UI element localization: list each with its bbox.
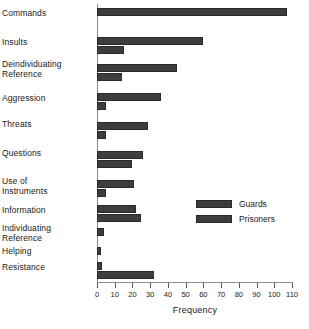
x-axis-title: Frequency xyxy=(97,305,293,315)
bar-chart-figure: CommandsInsultsDeindividuatingReferenceA… xyxy=(0,0,309,329)
chart-legend: Guards Prisoners xyxy=(196,196,275,226)
x-tick-mark-30 xyxy=(150,283,151,288)
bar-guards-commands xyxy=(97,8,287,16)
y-label-resistance: Resistance xyxy=(2,262,83,272)
bar-prisoners-information xyxy=(97,214,141,222)
legend-item-prisoners: Prisoners xyxy=(196,211,275,226)
x-tick-mark-50 xyxy=(186,283,187,288)
bar-prisoners-threats xyxy=(97,131,106,139)
x-tick-mark-80 xyxy=(239,283,240,288)
x-tick-label-40: 40 xyxy=(164,290,172,299)
bar-prisoners-resistance xyxy=(97,271,154,279)
bar-guards-individuating-reference xyxy=(97,228,104,236)
x-tick-mark-100 xyxy=(274,283,275,288)
legend-label-guards: Guards xyxy=(239,199,267,209)
x-tick-mark-60 xyxy=(203,283,204,288)
legend-label-prisoners: Prisoners xyxy=(239,214,275,224)
y-label-use-of-instruments: Use ofInstruments xyxy=(2,176,83,196)
x-tick-mark-40 xyxy=(168,283,169,288)
y-label-insults: Insults xyxy=(2,37,83,47)
x-tick-mark-0 xyxy=(97,283,98,288)
y-label-commands: Commands xyxy=(2,8,83,18)
x-tick-label-110: 110 xyxy=(286,290,298,299)
bar-guards-information xyxy=(97,205,136,213)
y-label-deindividuating-reference: DeindividuatingReference xyxy=(2,59,83,79)
bar-guards-deindividuating-reference xyxy=(97,64,177,72)
y-axis-category-labels: CommandsInsultsDeindividuatingReferenceA… xyxy=(0,0,92,282)
x-tick-label-30: 30 xyxy=(146,290,154,299)
legend-swatch-prisoners xyxy=(196,215,232,223)
bar-guards-aggression xyxy=(97,93,161,101)
x-tick-mark-110 xyxy=(292,283,293,288)
bar-guards-threats xyxy=(97,122,148,130)
bar-guards-helping xyxy=(97,247,101,255)
legend-swatch-guards xyxy=(196,200,232,208)
x-tick-label-60: 60 xyxy=(199,290,207,299)
y-label-threats: Threats xyxy=(2,119,83,129)
bar-guards-insults xyxy=(97,37,203,45)
y-label-helping: Helping xyxy=(2,246,83,256)
x-tick-label-0: 0 xyxy=(95,290,99,299)
bar-prisoners-questions xyxy=(97,160,132,168)
plot-area xyxy=(97,8,292,280)
bar-prisoners-aggression xyxy=(97,102,106,110)
x-tick-mark-90 xyxy=(257,283,258,288)
bar-guards-questions xyxy=(97,151,143,159)
x-tick-mark-70 xyxy=(221,283,222,288)
x-tick-mark-10 xyxy=(115,283,116,288)
x-tick-label-100: 100 xyxy=(268,290,281,299)
y-label-aggression: Aggression xyxy=(2,93,83,103)
y-label-questions: Questions xyxy=(2,148,83,158)
bar-guards-resistance xyxy=(97,262,102,270)
bar-prisoners-use-of-instruments xyxy=(97,189,106,197)
x-tick-label-80: 80 xyxy=(235,290,243,299)
x-tick-mark-20 xyxy=(132,283,133,288)
x-tick-label-50: 50 xyxy=(181,290,189,299)
bar-prisoners-insults xyxy=(97,46,124,54)
x-tick-label-10: 10 xyxy=(111,290,119,299)
y-label-information: Information xyxy=(2,205,83,215)
bar-prisoners-deindividuating-reference xyxy=(97,73,122,81)
x-tick-label-90: 90 xyxy=(252,290,260,299)
bar-rows xyxy=(97,8,292,280)
y-label-individuating-reference: IndividuatingReference xyxy=(2,223,83,243)
x-tick-label-70: 70 xyxy=(217,290,225,299)
legend-item-guards: Guards xyxy=(196,196,275,211)
x-axis-ticks: 0102030405060708090100110 xyxy=(97,283,293,305)
x-tick-label-20: 20 xyxy=(128,290,136,299)
bar-guards-use-of-instruments xyxy=(97,180,134,188)
